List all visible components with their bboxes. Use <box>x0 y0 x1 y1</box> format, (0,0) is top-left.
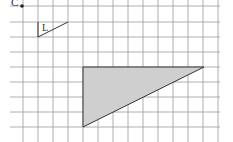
shape-l-label: L <box>42 23 48 33</box>
point-c <box>20 4 24 8</box>
grid-diagram <box>0 0 233 142</box>
point-c-label: C <box>11 0 18 8</box>
